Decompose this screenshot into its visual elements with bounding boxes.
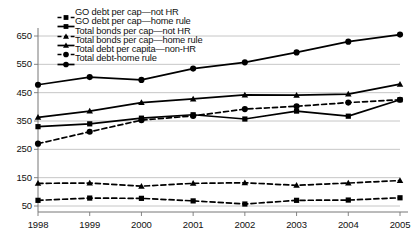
x-axis-tick-label: 2004: [335, 219, 361, 230]
data-point-circle: [35, 82, 41, 88]
legend-label: Total debt-home rule: [75, 54, 157, 63]
data-point-circle: [190, 66, 196, 72]
data-point-circle: [138, 77, 144, 83]
data-point-square: [242, 201, 247, 206]
data-point-circle: [397, 32, 403, 38]
data-point-circle: [242, 59, 248, 65]
legend-item[interactable]: Total debt-home rule: [57, 54, 202, 63]
data-point-square: [242, 116, 247, 121]
data-point-circle: [138, 117, 144, 123]
data-point-square: [346, 114, 351, 119]
x-axis-tick-label: 2005: [387, 219, 413, 230]
data-point-circle: [345, 100, 351, 106]
data-point-square: [35, 198, 40, 203]
legend-key-triangle-icon: [57, 36, 75, 45]
data-point-square: [397, 195, 402, 200]
y-axis-tick-label: 50: [6, 200, 32, 211]
data-point-square: [294, 198, 299, 203]
data-point-square: [346, 197, 351, 202]
data-point-circle: [35, 141, 41, 147]
data-point-circle: [345, 39, 351, 45]
data-point-circle: [294, 49, 300, 55]
y-axis-tick-label: 450: [6, 87, 32, 98]
data-point-square: [139, 196, 144, 201]
x-axis-tick-label: 2003: [284, 219, 310, 230]
data-point-circle: [242, 106, 248, 112]
series-2: [35, 177, 404, 188]
legend-key-circle-icon: [57, 45, 75, 54]
x-axis-tick-label: 1999: [77, 219, 103, 230]
data-point-circle: [294, 103, 300, 109]
data-point-circle: [87, 74, 93, 80]
x-axis-tick-label: 2000: [128, 219, 154, 230]
y-axis-tick-label: 350: [6, 115, 32, 126]
legend-key-square-icon: [57, 17, 75, 26]
series-0: [35, 195, 402, 206]
data-point-circle: [190, 113, 196, 119]
x-axis-tick-label: 2002: [232, 219, 258, 230]
data-point-square: [191, 198, 196, 203]
data-point-circle: [63, 61, 69, 67]
data-point-square: [87, 195, 92, 200]
legend-key-square-icon: [57, 8, 75, 17]
chart-legend: GO debt per cap—not HRGO debt per cap—ho…: [57, 8, 202, 64]
y-axis-tick-label: 250: [6, 143, 32, 154]
y-axis-tick-label: 550: [6, 58, 32, 69]
y-axis-tick-label: 650: [6, 30, 32, 41]
legend-key-circle-icon: [57, 55, 75, 64]
legend-key-triangle-icon: [57, 27, 75, 36]
y-axis-tick-label: 150: [6, 172, 32, 183]
data-point-circle: [397, 97, 403, 103]
line-chart: GO debt per cap—not HRGO debt per cap—ho…: [0, 0, 415, 240]
data-point-square: [35, 124, 40, 129]
x-axis-tick-label: 2001: [180, 219, 206, 230]
data-point-square: [87, 121, 92, 126]
x-axis-tick-label: 1998: [25, 219, 51, 230]
data-point-circle: [87, 129, 93, 135]
